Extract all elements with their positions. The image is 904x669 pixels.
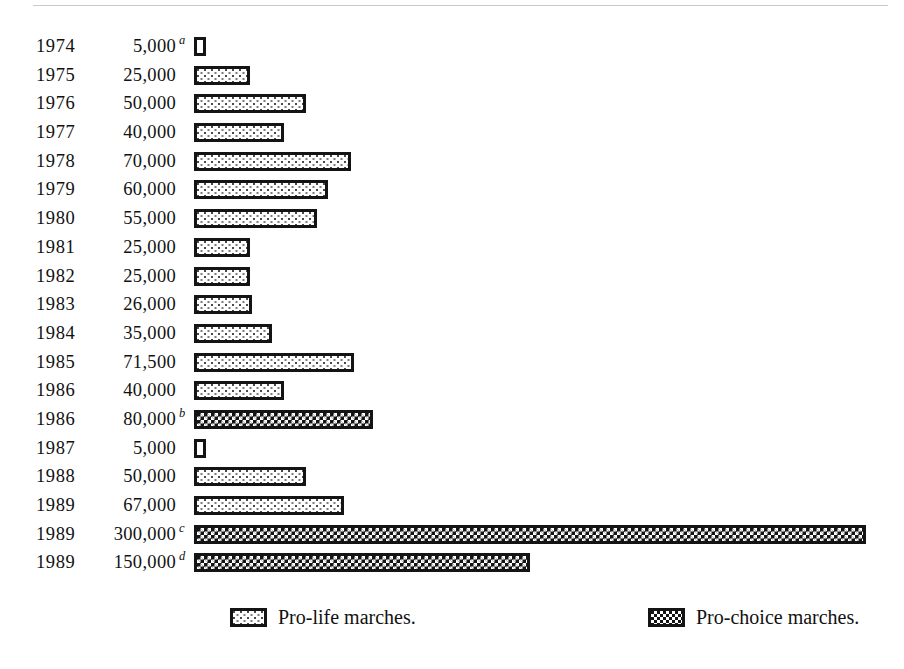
chart-row: 19745,000a [0,34,904,63]
row-value-label: 5,000 [95,436,176,460]
row-value-label: 40,000 [95,378,176,402]
row-year-label: 1987 [36,436,100,460]
bar-prolife [194,180,328,199]
row-footnote-marker: a [179,31,185,49]
bar-prolife [194,267,250,286]
chart-row: 198571,500 [0,350,904,379]
row-year-label: 1974 [36,34,100,58]
row-year-label: 1984 [36,321,100,345]
chart-row: 198850,000 [0,464,904,493]
row-year-label: 1978 [36,149,100,173]
bar-prolife [194,123,284,142]
row-footnote-marker: b [179,404,185,422]
bar-prolife [194,238,250,257]
row-footnote-marker: c [179,519,185,537]
bar-prolife [194,496,344,515]
chart-plate: 19745,000a197525,000197650,000197740,000… [0,0,904,669]
bar-prolife [194,353,354,372]
row-year-label: 1977 [36,120,100,144]
legend-item-prochoice: Pro-choice marches. [648,606,859,628]
bar-prolife [194,152,351,171]
row-year-label: 1988 [36,464,100,488]
chart-row: 198640,000 [0,378,904,407]
row-year-label: 1983 [36,292,100,316]
row-year-label: 1986 [36,407,100,431]
row-year-label: 1989 [36,550,100,574]
row-year-label: 1975 [36,63,100,87]
row-value-label: 70,000 [95,149,176,173]
row-value-label: 67,000 [95,493,176,517]
bar-prolife [194,381,284,400]
legend-swatch-prolife-icon [230,608,267,627]
bar-prolife [194,467,306,486]
chart-row: 198435,000 [0,321,904,350]
chart-row: 1989300,000c [0,522,904,551]
chart-row: 198055,000 [0,206,904,235]
row-year-label: 1980 [36,206,100,230]
top-rule [33,5,888,6]
bar-chart-rows: 19745,000a197525,000197650,000197740,000… [0,34,904,579]
legend-label-prolife: Pro-life marches. [278,606,416,628]
row-value-label: 25,000 [95,264,176,288]
bar-prolife [194,94,306,113]
legend-label-prochoice: Pro-choice marches. [696,606,859,628]
chart-row: 197740,000 [0,120,904,149]
bar-prolife [194,66,250,85]
row-value-label: 55,000 [95,206,176,230]
row-year-label: 1981 [36,235,100,259]
row-footnote-marker: d [179,547,185,565]
row-value-label: 40,000 [95,120,176,144]
row-year-label: 1989 [36,493,100,517]
chart-row: 198225,000 [0,264,904,293]
row-value-label: 25,000 [95,235,176,259]
row-value-label: 300,000 [95,522,176,546]
bar-prochoice [194,410,373,429]
row-year-label: 1979 [36,177,100,201]
bar-prolife [194,439,206,458]
row-value-label: 25,000 [95,63,176,87]
chart-row: 198326,000 [0,292,904,321]
chart-row: 198967,000 [0,493,904,522]
chart-row: 19875,000 [0,436,904,465]
bar-prochoice [194,553,530,572]
chart-row: 198680,000b [0,407,904,436]
row-value-label: 71,500 [95,350,176,374]
chart-row: 1989150,000d [0,550,904,579]
legend-item-prolife: Pro-life marches. [230,606,416,628]
bar-prolife [194,209,317,228]
chart-legend: Pro-life marches. Pro-choice marches. [0,606,904,638]
row-year-label: 1986 [36,378,100,402]
row-value-label: 80,000 [95,407,176,431]
row-year-label: 1976 [36,91,100,115]
row-value-label: 150,000 [95,550,176,574]
row-year-label: 1982 [36,264,100,288]
bar-prolife [194,37,206,56]
chart-row: 198125,000 [0,235,904,264]
row-year-label: 1989 [36,522,100,546]
chart-row: 197525,000 [0,63,904,92]
row-value-label: 26,000 [95,292,176,316]
chart-row: 197650,000 [0,91,904,120]
row-year-label: 1985 [36,350,100,374]
legend-swatch-prochoice-icon [648,608,685,627]
row-value-label: 50,000 [95,464,176,488]
row-value-label: 50,000 [95,91,176,115]
chart-row: 197960,000 [0,177,904,206]
bar-prolife [194,324,272,343]
chart-row: 197870,000 [0,149,904,178]
row-value-label: 60,000 [95,177,176,201]
row-value-label: 5,000 [95,34,176,58]
bar-prochoice [194,525,866,544]
bar-prolife [194,295,252,314]
row-value-label: 35,000 [95,321,176,345]
